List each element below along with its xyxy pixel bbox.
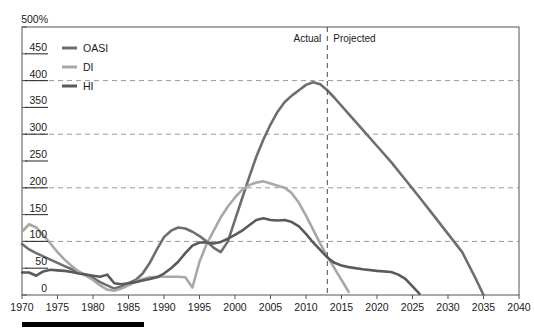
y-axis-label-200: 200 (29, 175, 47, 187)
y-axis-label-350: 350 (29, 94, 47, 106)
x-axis-label-2005: 2005 (259, 301, 283, 313)
x-axis-label-2035: 2035 (472, 301, 496, 313)
chart-background (0, 0, 534, 334)
x-axis-label-2000: 2000 (223, 301, 247, 313)
trust-fund-ratio-line-chart: Actual Projected OASIDIHI 45040035030025… (0, 0, 534, 334)
legend-label-oasi: OASI (83, 42, 108, 54)
y-axis-top-label: 500% (21, 13, 48, 25)
x-axis-labels-group: 1970197519801985199019952000200520102015… (10, 301, 531, 313)
x-axis-label-2030: 2030 (436, 301, 460, 313)
x-axis-label-2025: 2025 (401, 301, 425, 313)
legend-label-hi: HI (83, 80, 94, 92)
x-axis-label-2010: 2010 (294, 301, 318, 313)
x-axis-label-1975: 1975 (46, 301, 70, 313)
y-axis-label-100: 100 (29, 228, 47, 240)
y-axis-label-300: 300 (29, 121, 47, 133)
x-axis-label-2040: 2040 (507, 301, 531, 313)
x-axis-label-1990: 1990 (152, 301, 176, 313)
source-rule-bar (22, 322, 144, 327)
x-axis-label-2015: 2015 (330, 301, 354, 313)
y-axis-label-150: 150 (29, 202, 47, 214)
x-axis-label-1985: 1985 (117, 301, 141, 313)
y-axis-label-50: 50 (35, 255, 47, 267)
y-axis-label-250: 250 (29, 148, 47, 160)
projected-label: Projected (333, 33, 375, 44)
x-axis-label-1970: 1970 (10, 301, 34, 313)
x-axis-label-1995: 1995 (188, 301, 212, 313)
y-axis-label-450: 450 (29, 41, 47, 53)
x-axis-label-2020: 2020 (365, 301, 389, 313)
y-axis-label-400: 400 (29, 68, 47, 80)
y-axis-label-0: 0 (41, 282, 47, 294)
chart-figure: Actual Projected OASIDIHI 45040035030025… (0, 0, 534, 334)
actual-label: Actual (294, 33, 322, 44)
x-axis-label-1980: 1980 (81, 301, 105, 313)
legend-label-di: DI (83, 61, 94, 73)
